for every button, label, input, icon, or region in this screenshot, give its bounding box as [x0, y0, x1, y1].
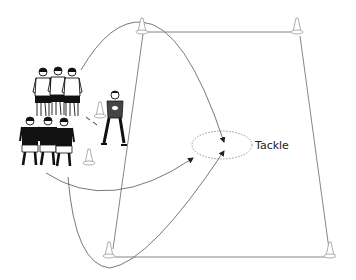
ball-icon: [112, 106, 119, 111]
loop-under-cone-path: [68, 151, 224, 268]
cone-icon-bottom-left: [103, 242, 115, 258]
cone-icon-top-left: [136, 18, 148, 34]
cone-icon-start-lower: [83, 149, 95, 165]
player-icon-black-3: [54, 118, 74, 166]
player-icon-white-3: [62, 68, 82, 116]
pitch-boundary: [113, 32, 329, 257]
coach-figure: [101, 91, 127, 145]
black-jersey-group: [20, 117, 74, 166]
tackle-zone-label: Tackle: [255, 140, 289, 151]
right-edge-line: [300, 36, 329, 249]
movement-paths: [46, 22, 224, 268]
arc-over-top-cone-path: [81, 22, 224, 142]
cone-icon-bottom-right: [324, 242, 336, 258]
white-jersey-group: [33, 67, 82, 116]
pass-dashes: [86, 117, 97, 125]
drill-diagram-svg: [0, 0, 356, 280]
drill-diagram: Tackle: [0, 0, 356, 280]
left-edge-line: [113, 34, 143, 249]
cone-icon-top-right: [291, 18, 303, 34]
player-icon-black-1: [20, 117, 40, 165]
cone-icon-start-upper: [94, 102, 106, 118]
curve-to-tackle-path: [46, 158, 193, 191]
